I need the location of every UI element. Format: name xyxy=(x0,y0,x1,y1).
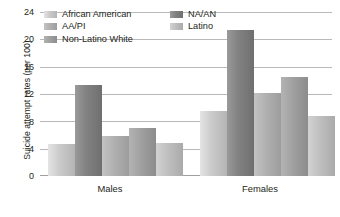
y-tick-16: 16 xyxy=(8,63,34,72)
legend-swatch-latino xyxy=(170,23,183,30)
legend-swatch-na-an xyxy=(170,11,183,18)
legend-swatch-african-american xyxy=(44,11,57,18)
legend-column-right: NA/AN Latino xyxy=(170,8,270,33)
legend-label-african-american: African American xyxy=(62,10,131,19)
legend-item-aa-pi: AA/PI xyxy=(44,21,164,34)
bar-females-na-an xyxy=(227,30,254,176)
bar-males-na-an xyxy=(75,85,102,176)
bar-males-african-american xyxy=(48,144,75,176)
bar-females-african-american xyxy=(200,111,227,176)
y-tick-8: 8 xyxy=(8,118,34,127)
bar-males-latino xyxy=(156,143,183,176)
bar-females-latino xyxy=(308,116,335,176)
bar-females-non-latino-white xyxy=(281,77,308,176)
suicide-attempt-rates-bar-chart: Suicide attempt rates (per 100) 24 20 16… xyxy=(0,0,340,217)
legend-item-non-latino-white: Non-Latino White xyxy=(44,33,164,46)
y-tick-20: 20 xyxy=(8,35,34,44)
x-tick-males: Males xyxy=(55,183,165,194)
y-tick-24: 24 xyxy=(8,8,34,17)
legend-item-african-american: African American xyxy=(44,8,164,21)
y-tick-12: 12 xyxy=(8,90,34,99)
y-tick-4: 4 xyxy=(8,145,34,154)
legend-swatch-aa-pi xyxy=(44,23,57,30)
legend-column-left: African American AA/PI Non-Latino White xyxy=(44,8,164,46)
legend-swatch-non-latino-white xyxy=(44,36,57,43)
legend-item-na-an: NA/AN xyxy=(170,8,270,21)
legend-label-na-an: NA/AN xyxy=(188,10,216,19)
bar-males-non-latino-white xyxy=(129,128,156,176)
y-tick-0: 0 xyxy=(8,172,34,181)
legend-label-aa-pi: AA/PI xyxy=(62,22,86,31)
legend-label-latino: Latino xyxy=(188,22,213,31)
gridline-16 xyxy=(40,67,332,68)
bar-males-aa-pi xyxy=(102,136,129,176)
legend-label-non-latino-white: Non-Latino White xyxy=(62,35,133,44)
bar-females-aa-pi xyxy=(254,93,281,176)
legend-item-latino: Latino xyxy=(170,21,270,34)
x-tick-females: Females xyxy=(205,183,315,194)
